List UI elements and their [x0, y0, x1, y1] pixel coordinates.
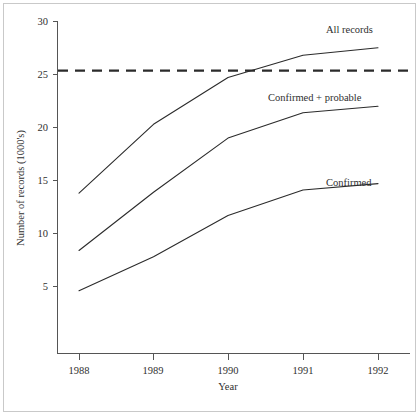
series-label-confirmed: Confirmed — [326, 177, 372, 188]
x-axis-title: Year — [218, 381, 238, 392]
x-tick-label-1989: 1989 — [143, 365, 164, 376]
y-tick-labels: 30 25 20 15 10 5 — [38, 16, 49, 292]
y-tick-label-25: 25 — [38, 69, 49, 80]
x-tick-label-1992: 1992 — [368, 365, 389, 376]
figure-container: 30 25 20 15 10 5 1988 1989 1990 1991 199… — [0, 0, 420, 416]
y-tick-label-20: 20 — [38, 122, 49, 133]
series-label-all-records: All records — [326, 24, 373, 35]
line-chart: 30 25 20 15 10 5 1988 1989 1990 1991 199… — [0, 0, 420, 416]
y-tick-label-15: 15 — [38, 175, 49, 186]
y-tick-label-10: 10 — [38, 228, 49, 239]
x-tick-labels: 1988 1989 1990 1991 1992 — [69, 365, 389, 376]
series-line-confirmed — [79, 184, 378, 291]
x-tick-label-1988: 1988 — [69, 365, 90, 376]
y-tick-label-30: 30 — [38, 16, 49, 27]
x-tick-group — [80, 354, 379, 360]
y-axis-title: Number of records (1000's) — [15, 130, 27, 246]
y-tick-group — [53, 22, 58, 287]
x-tick-label-1991: 1991 — [293, 365, 314, 376]
y-tick-label-5: 5 — [43, 281, 48, 292]
series-label-confirmed-probable: Confirmed + probable — [268, 92, 362, 103]
x-tick-label-1990: 1990 — [218, 365, 239, 376]
